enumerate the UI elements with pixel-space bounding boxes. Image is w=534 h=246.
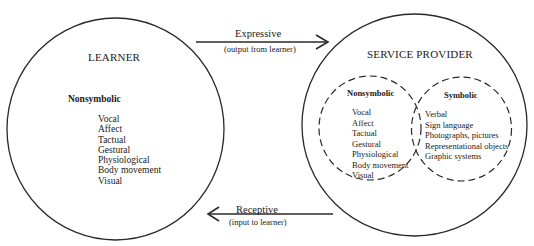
service-provider-title: SERVICE PROVIDER: [367, 49, 473, 60]
list-item: Tactual: [98, 135, 161, 145]
list-item: Affect: [352, 118, 408, 129]
provider-nonsymbolic-heading: Nonsymbolic: [347, 89, 394, 98]
list-item: Physiological: [98, 155, 161, 165]
list-item: Visual: [352, 170, 408, 181]
list-item: Verbal: [425, 109, 508, 120]
list-item: Vocal: [352, 107, 408, 118]
receptive-sublabel: (input to learner): [229, 218, 287, 227]
list-item: Visual: [98, 176, 161, 186]
provider-symbolic-list: Verbal Sign language Photographs, pictur…: [425, 109, 508, 162]
receptive-label: Receptive: [236, 205, 278, 216]
list-item: Body movement: [98, 165, 161, 175]
list-item: Graphic systems: [425, 151, 508, 162]
list-item: Photographs, pictures: [425, 130, 508, 141]
list-item: Tactual: [352, 128, 408, 139]
provider-nonsymbolic-list: Vocal Affect Tactual Gestural Physiologi…: [352, 107, 408, 181]
list-item: Gestural: [352, 139, 408, 150]
expressive-label: Expressive: [235, 29, 281, 40]
list-item: Sign language: [425, 120, 508, 131]
list-item: Body movement: [352, 160, 408, 171]
list-item: Gestural: [98, 145, 161, 155]
list-item: Representational objects: [425, 141, 508, 152]
learner-title: LEARNER: [88, 52, 140, 63]
learner-nonsymbolic-list: Vocal Affect Tactual Gestural Physiologi…: [98, 114, 161, 186]
list-item: Physiological: [352, 149, 408, 160]
expressive-sublabel: (output from learner): [224, 45, 296, 54]
learner-nonsymbolic-heading: Nonsymbolic: [68, 95, 121, 105]
provider-symbolic-heading: Symbolic: [444, 91, 478, 100]
list-item: Affect: [98, 124, 161, 134]
list-item: Vocal: [98, 114, 161, 124]
